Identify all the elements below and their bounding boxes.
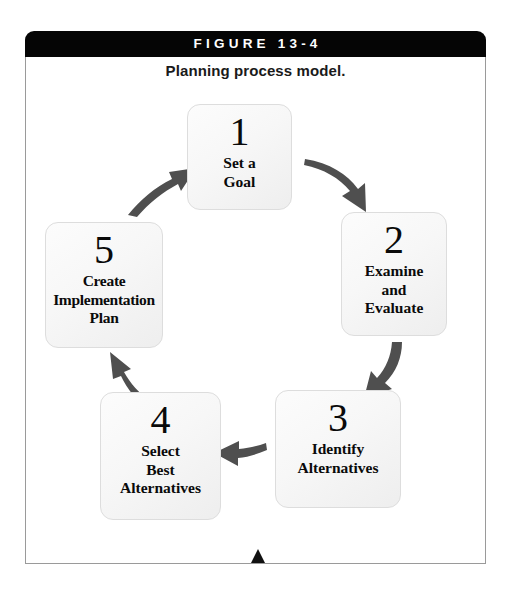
step-box-3[interactable]: 3 Identify Alternatives [275, 390, 401, 508]
step-box-5[interactable]: 5 Create Implementation Plan [45, 222, 163, 348]
step-label-3-line-1: Identify [276, 440, 400, 458]
figure-container: FIGURE 13-4 Planning process model. 1 Se… [0, 0, 509, 595]
step-label-3-line-2: Alternatives [276, 459, 400, 477]
step-label-4-line-2: Best [101, 461, 220, 479]
step-box-4[interactable]: 4 Select Best Alternatives [100, 392, 221, 520]
bottom-triangle-marker [251, 549, 265, 563]
step-label-1-line-1: Set a [188, 154, 291, 172]
step-label-5-line-1: Create [46, 272, 162, 290]
step-label-1-line-2: Goal [188, 173, 291, 191]
step-label-4-line-1: Select [101, 442, 220, 460]
step-box-1[interactable]: 1 Set a Goal [187, 104, 292, 210]
step-label-5-line-2: Implementation [46, 291, 162, 309]
step-label-2-line-2: and [342, 281, 446, 299]
step-number-5: 5 [46, 229, 162, 271]
step-label-2-line-1: Examine [342, 262, 446, 280]
step-box-2[interactable]: 2 Examine and Evaluate [341, 212, 447, 336]
figure-header-bar: FIGURE 13-4 [25, 31, 486, 57]
step-number-3: 3 [276, 397, 400, 439]
step-number-2: 2 [342, 219, 446, 261]
step-number-4: 4 [101, 399, 220, 441]
step-label-4-line-3: Alternatives [101, 479, 220, 497]
step-number-1: 1 [188, 111, 291, 153]
figure-number-label: FIGURE 13-4 [25, 36, 486, 52]
figure-caption: Planning process model. [25, 62, 486, 79]
step-label-2-line-3: Evaluate [342, 299, 446, 317]
step-label-5-line-3: Plan [46, 309, 162, 327]
